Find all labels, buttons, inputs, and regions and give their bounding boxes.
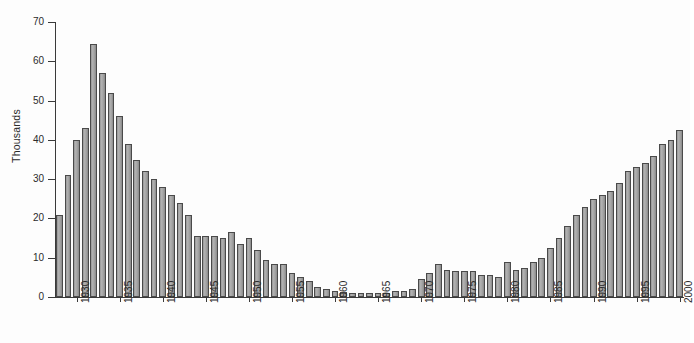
x-tick-mark [594,297,595,302]
bar [306,281,313,297]
y-tick-label: 10 [0,253,44,263]
bar [82,128,89,297]
y-tick-mark [48,61,55,62]
x-tick-mark [378,297,379,302]
x-tick-label: 1960 [339,281,349,303]
bar [323,289,330,297]
bar [56,215,63,298]
bar [228,232,235,297]
x-tick-label: 1945 [210,281,220,303]
bar [125,144,132,297]
y-tick-label: 20 [0,213,44,223]
x-tick-mark [249,297,250,302]
x-tick-label: 1955 [296,281,306,303]
x-tick-mark [163,297,164,302]
x-tick-label: 1980 [511,281,521,303]
bar [444,270,451,298]
x-tick-label: 1975 [468,281,478,303]
bar [538,258,545,297]
x-tick-mark [680,297,681,302]
x-tick-label: 1930 [81,281,91,303]
bar [177,203,184,297]
y-tick-mark [48,101,55,102]
bar [401,291,408,297]
x-tick-mark [292,297,293,302]
bar [564,226,571,297]
x-tick-label: 1995 [641,281,651,303]
x-tick-mark [206,297,207,302]
x-tick-label: 1990 [598,281,608,303]
bar [409,289,416,297]
y-tick-label: 30 [0,174,44,184]
bar [659,144,666,297]
x-tick-mark [421,297,422,302]
x-tick-label: 1940 [167,281,177,303]
x-tick-label: 1950 [253,281,263,303]
bar [263,260,270,297]
bar [65,175,72,297]
bar [616,183,623,297]
y-tick-mark [48,258,55,259]
bar [530,262,537,297]
x-tick-label: 1985 [554,281,564,303]
bar [452,271,459,297]
bar [495,277,502,297]
bar [73,140,80,297]
bar [633,167,640,297]
bar [280,264,287,297]
y-tick-mark [48,22,55,23]
bar [435,264,442,297]
y-tick-label: 40 [0,135,44,145]
x-tick-label: 1970 [425,281,435,303]
bar [668,140,675,297]
bar [607,191,614,297]
bar [392,291,399,297]
x-tick-label: 2000 [684,281,694,303]
y-tick-label: 60 [0,56,44,66]
bar [478,275,485,297]
bar [90,44,97,297]
y-tick-label: 0 [0,292,44,302]
y-tick-mark [48,140,55,141]
x-tick-label: 1935 [124,281,134,303]
bar [116,116,123,297]
y-tick-label: 50 [0,96,44,106]
bar [358,293,365,297]
bar [642,163,649,297]
bar [487,275,494,297]
bar [108,93,115,297]
x-tick-label: 1965 [382,281,392,303]
y-tick-mark [48,218,55,219]
bar [582,207,589,297]
bar [625,171,632,297]
y-tick-mark [48,179,55,180]
bar [271,264,278,297]
bar [676,130,683,297]
bar [349,293,356,297]
bar [590,199,597,297]
x-tick-mark [335,297,336,302]
bar [650,156,657,297]
bar-series [55,22,684,297]
x-tick-mark [550,297,551,302]
bar [220,238,227,297]
bar [99,73,106,297]
y-tick-mark [48,297,55,298]
bar [573,215,580,298]
bar [521,268,528,297]
x-tick-mark [464,297,465,302]
bar [142,171,149,297]
y-tick-label: 70 [0,17,44,27]
bar [151,179,158,297]
bar [185,215,192,298]
bar [237,244,244,297]
bar [194,236,201,297]
x-axis-line [55,297,684,298]
x-tick-mark [637,297,638,302]
bar [314,287,321,297]
bar [133,160,140,298]
x-tick-mark [507,297,508,302]
x-tick-mark [120,297,121,302]
x-tick-mark [77,297,78,302]
